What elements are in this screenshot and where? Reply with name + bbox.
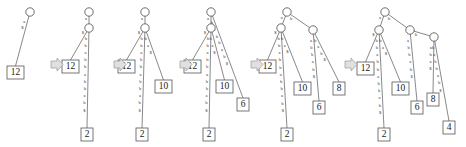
edge-label-char: a [140,72,142,77]
edge-label-char: $ [410,74,413,79]
edge-label-char: $ [439,88,442,93]
root-node [26,8,34,16]
panel-4: a$bbabbabbab$ba$babbab$122106 [184,8,249,141]
leaf-label: 8 [337,83,342,93]
edge-label-char: a [317,44,319,49]
leaf-label: 2 [207,129,212,139]
edge-label-char: b [84,79,87,84]
edge-label-char: $ [282,108,285,113]
edge-label-char: b [379,103,382,108]
edge-label-char: $ [286,49,289,54]
edge-label-char: b [375,38,378,43]
leaf-label: 10 [159,81,169,91]
edge-label-char: b [84,57,87,62]
edge-label-char: b [84,64,87,69]
edge-label-char: b [85,36,88,41]
edge-label-char: $ [204,30,207,35]
edge-label-char: a [312,59,314,64]
leaf-label: 6 [241,99,246,109]
edge-label-char: b [141,36,144,41]
edge-label-char: a [379,15,381,20]
edge-label-char: $ [226,61,229,66]
leaves-group: 12210 [118,60,172,141]
internal-node [375,26,383,34]
figure-canvas: a$12a$bbabbabbab$122a$bbabbabbab$ba$1221… [0,0,466,147]
panel-5: ab$bbabbabbab$ba$abbab$bab$1221068 [259,8,345,141]
leaf-label: 2 [382,129,387,139]
root-node [381,8,389,16]
edge-label-char: a [206,50,208,55]
edge-label-char: $ [213,50,216,55]
panel-3: a$bbabbabbab$ba$12210 [118,8,172,141]
edge-label-char: a [281,15,283,20]
edge-label-char: b [434,59,437,64]
edge-label-char: b [378,81,381,86]
edge-label-char: b [206,86,209,91]
edge-label-char: b [320,51,323,56]
edge-label-char: b [206,43,209,48]
edge-label-char: b [388,16,391,21]
edge-label-char: b [311,52,314,57]
arrow-1 [51,58,63,71]
edge-label-char: $ [313,74,316,79]
internal-node [309,26,317,34]
edge-label-char: a [84,50,86,55]
root-node [283,8,291,16]
edge-label-char: b [139,79,142,84]
tree-edge [434,37,449,121]
nodes-group [26,8,34,16]
edge-label-char: b [210,36,213,41]
edge-label-char: a [278,50,280,55]
leaf-label: 6 [415,102,420,112]
leaf-label: 6 [317,102,322,112]
edge-label-char: $ [21,25,24,30]
leaf-label: 2 [285,129,290,139]
edge-label-char: b [377,67,380,72]
leaf-label: 12 [66,61,76,71]
edge-label-char: b [279,57,282,62]
edge-label-char: b [430,52,433,57]
edge-label-char: b [290,16,293,21]
edge-label-char: a [310,38,312,43]
edge-label-char: b [223,54,226,59]
leaves-group: 122106 [184,60,249,141]
edge-label-char: b [378,88,381,93]
edge-label-char: a [85,16,87,21]
edge-label-char: b [310,45,313,50]
edge-label-char: $ [429,66,432,71]
internal-node [277,24,285,32]
leaves-group: 12 [7,66,24,79]
edge-label-char: $ [138,30,141,35]
leaf-label: 10 [396,83,406,93]
edge-label-char: a [147,43,149,48]
edges-group: a$ [16,12,31,66]
edge-label-char: $ [372,32,375,37]
right-arrow-icon [345,58,357,71]
panel-2: a$bbabbabbab$122 [62,8,93,141]
edge-label-char: a [206,93,208,98]
leaf-label: 10 [298,83,308,93]
edge-label-char: a [207,16,209,21]
internal-node [85,24,93,32]
edge-label-char: b [278,43,281,48]
tree-edge [87,28,89,128]
internal-node [406,26,414,34]
root-node [141,8,149,16]
edge-label-char: b [140,57,143,62]
leaves-group: 1221068 [259,60,345,141]
leaf-label: 12 [11,67,21,77]
edge-label-char: b [145,36,148,41]
arrow-5 [345,58,357,71]
edge-label-char: a [378,95,380,100]
nodes-group [375,8,438,41]
edge-label-char: b [139,86,142,91]
edge-label-char: $ [274,30,277,35]
edge-label-char: b [436,66,439,71]
edge-label-char: a [221,47,223,52]
panel-1: a$12 [7,8,34,79]
leaf-label: 12 [263,61,273,71]
edge-label-char: b [314,38,317,43]
leaf-label: 4 [447,122,452,132]
edge-label-char: $ [149,50,152,55]
edge-label-char: b [408,45,411,50]
